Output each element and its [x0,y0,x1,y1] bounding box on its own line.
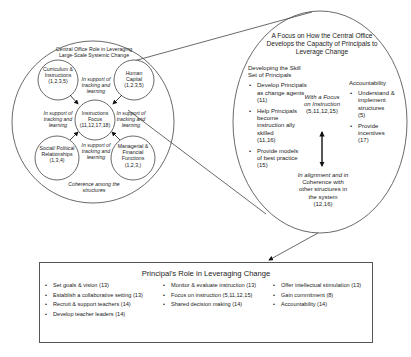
principal-item: Focus on instruction (5,11,12,15) [162,293,256,299]
principal-column-1: Set goals & vision (13) Establish a coll… [44,283,143,321]
accountability-section: Accountability Understand & implement st… [349,80,401,149]
node-instructional-focus: Instructions Focus (11,12,17,18) [76,110,114,129]
node-managerial-refs: (1,2,3,) [115,162,151,168]
node-human-capital: Human Capital (1,2,3,5) [117,70,151,89]
principal-item: Accountability (14) [272,302,361,308]
left-circle-title: Central Office Role in Leveraging Large-… [48,46,140,58]
node-managerial-label: Managerial & Financial Functions [115,143,151,162]
left-circle-footer: Coherence among the structures [66,181,122,193]
focus-bottom-italic: In alignment and in [298,172,349,178]
focus-top: With a Focus on Instruction (5,11,12,15) [302,94,342,116]
focus-top-text: With a Focus on Instruction [302,94,342,108]
skill-set-section: Developing the Skill Set of Principals D… [248,65,308,173]
principal-item: Shared decision making (14) [162,302,256,308]
node-instructional-focus-refs: (11,12,17,18) [76,122,114,128]
principal-item: Gain commitment (8) [272,293,361,299]
principal-item: Set goals & vision (13) [44,283,143,289]
principal-box-title: Principal's Role in Leveraging Change [40,269,372,278]
principal-column-3: Offer intellectual stimulation (13) Gain… [272,283,361,312]
node-curriculum: Curriculum & Instructions (1,2,3,5) [40,66,76,85]
skill-item: Develop Principals as change agents(11) [248,82,308,104]
principal-item: Monitor & evaluate instruction (13) [162,283,256,289]
node-social-political: Social/ Political Relationships (1,3,4) [37,145,77,164]
focus-bottom: In alignment and in Coherence with other… [296,172,350,208]
node-managerial: Managerial & Financial Functions (1,2,3,… [115,143,151,168]
principal-item: Recruit & support teachers (14) [44,302,143,308]
node-human-capital-label: Human Capital [117,70,151,82]
principal-item: Offer intellectual stimulation (13) [272,283,361,289]
node-instructional-focus-label: Instructions Focus [76,110,114,122]
support-label-bottom: In support of tracking and learning [77,142,115,161]
accountability-heading: Accountability [349,80,401,87]
right-oval-title: A Focus on How the Central Office Develo… [263,32,381,56]
skill-item: Help Principals become instruction ally … [248,108,299,144]
support-label-left: In support of tracking and learning [41,110,75,129]
skill-item: Provide models of best practice(15) [248,148,301,170]
focus-top-refs: (5,11,12,15) [302,108,342,115]
node-social-political-label: Social/ Political Relationships [37,145,77,157]
node-human-capital-refs: (1,2,3,5) [117,82,151,88]
focus-bottom-refs: (12,16) [296,201,350,208]
accountability-item: Provide incentives(17) [349,123,401,145]
accountability-item: Understand & implement structures(5) [349,90,401,119]
focus-bottom-text: Coherence with other structures in the s… [299,179,347,199]
node-social-political-refs: (1,3,4) [37,157,77,163]
support-label-right: In support of tracking and learning [114,110,148,129]
principal-item: Develop teacher leaders (14) [44,312,143,318]
support-label-top: In support of tracking and learning [77,76,115,95]
node-curriculum-refs: (1,2,3,5) [40,78,76,84]
skill-set-heading: Developing the Skill Set of Principals [248,65,308,79]
principal-column-2: Monitor & evaluate instruction (13) Focu… [162,283,256,312]
node-curriculum-label: Curriculum & Instructions [40,66,76,78]
principal-role-box: Principal's Role in Leveraging Change Se… [39,262,373,343]
principal-item: Establish a collaborative setting (13) [44,293,143,299]
